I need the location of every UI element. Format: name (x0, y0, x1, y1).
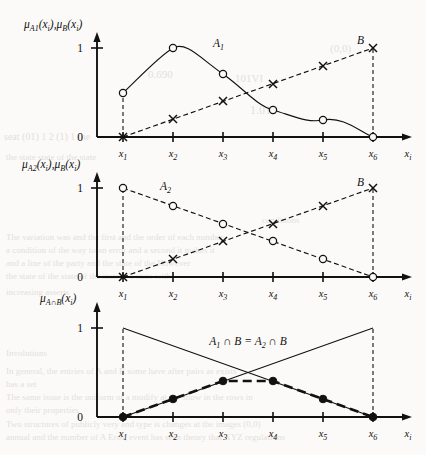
panel-2-y-arrow (93, 172, 100, 182)
panel-2-label-B: B (357, 176, 364, 188)
panel-2-marker-A2-x5 (319, 255, 326, 262)
panel-3-xtick-label-4: x4 (268, 428, 278, 442)
panel-2-xtick-label-1: x1 (118, 288, 128, 302)
panel-2-x-arrow (402, 273, 412, 280)
panel-3-ytick-label-1: 1 (77, 322, 83, 334)
panel-1-marker-A1-x1 (119, 89, 126, 96)
panel-2-marker-A2-x1 (119, 184, 126, 191)
panel-1-marker-A1-x6 (369, 133, 376, 140)
panel-3-ytick-label-0: 0 (77, 411, 83, 423)
panel-3-xtick-label-2: x2 (168, 428, 178, 442)
panel-3-marker-min-x1 (119, 413, 127, 421)
panel-3-y-arrow (93, 302, 100, 312)
panel-1: 1 0 μA1(xi), (23, 18, 412, 162)
panel-1-label-A1: A1 (212, 37, 224, 52)
panel-1-xtick-label-4: x4 (268, 148, 278, 162)
panel-1-x-arrow (402, 133, 412, 140)
panel-2-marker-A2-x2 (169, 202, 176, 209)
panel-2-ytick-label-0: 0 (77, 271, 83, 283)
panel-2-marker-A2-x6 (369, 273, 376, 280)
panel-3-curve-min (123, 381, 373, 417)
panel-1-ytick-label-0: 0 (77, 131, 83, 143)
panel-1-y-arrow (93, 32, 100, 42)
panel-1-marker-A1-x3 (219, 70, 226, 77)
panel-3-xtick-labels: x1 x2 x3 x4 x5 x6 (118, 428, 378, 442)
panel-2-xtick-label-6: x6 (368, 288, 378, 302)
panel-2-ytick-label-1: 1 (77, 182, 83, 194)
panel-3-xtick-label-5: x5 (318, 428, 328, 442)
panel-3-intersection-label: A1 ∩ B = A2 ∩ B (208, 335, 287, 350)
panel-3-xtick-label-6: x6 (368, 428, 378, 442)
fuzzy-set-membership-figure: 1 0 μA1(xi), (0, 0, 426, 455)
panel-2-label-A2: A2 (159, 180, 171, 195)
panel-1-xtick-label-6: x6 (368, 148, 378, 162)
panel-1-curve-B (123, 48, 373, 137)
panel-2-xtick-label-4: x4 (268, 288, 278, 302)
panel-3-marker-min-x4 (269, 377, 277, 385)
panel-2: 1 0 μA2(xi),μB(xi) A (21, 158, 412, 302)
panel-2-y-axis-label: μA2(xi),μB(xi) (21, 158, 80, 173)
panel-2-xtick-label-5: x5 (318, 288, 328, 302)
panel-3-y-axis-label: μA∩B(xi) (39, 292, 77, 307)
panel-3-xtick-label-1: x1 (118, 428, 128, 442)
panel-2-marker-A2-x4 (269, 237, 276, 244)
panel-3-x-arrow (402, 413, 412, 420)
panel-1-marker-A1-x5 (319, 116, 326, 123)
panel-1-curve-A1 (123, 46, 373, 137)
panel-1-xtick-label-1: x1 (118, 148, 128, 162)
panel-1-xtick-label-3: x3 (218, 148, 228, 162)
panel-3: 1 0 μA∩B(xi) A1 ∩ B = A2 ∩ B x1 x2 x3 (39, 292, 412, 442)
panel-3-marker-min-x3 (219, 377, 227, 385)
panel-2-x-axis-label: xi (404, 288, 412, 302)
panel-2-marker-A2-x3 (219, 220, 226, 227)
panel-1-xtick-labels: x1 x2 x3 x4 x5 x6 (118, 148, 378, 162)
panel-1-marker-A1-x4 (269, 106, 276, 113)
panel-1-ytick-label-1: 1 (77, 42, 83, 54)
panel-1-xtick-label-2: x2 (168, 148, 178, 162)
panel-3-marker-min-x5 (319, 395, 327, 403)
panel-1-xtick-label-5: x5 (318, 148, 328, 162)
panel-2-xtick-label-3: x3 (218, 288, 228, 302)
panel-1-y-axis-label: μA1(xi),μB(xi) (23, 18, 82, 33)
panel-1-marker-A1-x2 (169, 44, 176, 51)
panel-2-xtick-label-2: x2 (168, 288, 178, 302)
panel-3-x-axis-label: xi (404, 428, 412, 442)
panel-1-label-B: B (357, 34, 364, 46)
panel-1-x-axis-label: xi (404, 148, 412, 162)
panel-3-marker-min-x6 (369, 413, 377, 421)
panel-3-marker-min-x2 (169, 395, 177, 403)
panel-3-xtick-label-3: x3 (218, 428, 228, 442)
panel-2-xtick-labels: x1 x2 x3 x4 x5 x6 (118, 288, 378, 302)
